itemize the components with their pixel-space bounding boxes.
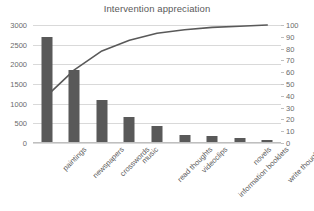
left-axis-tick-label: 3000 (10, 21, 27, 30)
right-axis-tick-label: 70 (286, 56, 294, 65)
category-label: paintings (61, 145, 89, 173)
right-axis-tick-label: 0 (286, 139, 290, 148)
right-axis-tick-label: 30 (286, 103, 294, 112)
right-axis-tick-label: 40 (286, 91, 294, 100)
right-axis-tick-mark (281, 84, 284, 85)
right-axis-tick-mark (281, 131, 284, 132)
right-axis-tick-mark (281, 25, 284, 26)
left-axis-tick-label: 2000 (10, 60, 27, 69)
right-axis-tick-mark (281, 60, 284, 61)
right-axis-tick-mark (281, 49, 284, 50)
category-axis-line (33, 142, 281, 143)
right-axis-tick-mark (281, 119, 284, 120)
cumulative-line (47, 25, 267, 96)
right-axis-tick-label: 90 (286, 32, 294, 41)
right-axis-tick-mark (281, 37, 284, 38)
right-axis-tick-mark (281, 108, 284, 109)
left-axis-tick-label: 1000 (10, 99, 27, 108)
chart-title: Intervention appreciation (0, 3, 314, 14)
right-axis-tick-label: 60 (286, 68, 294, 77)
left-value-axis: 050010001500200025003000 (0, 25, 30, 143)
right-axis-tick-label: 50 (286, 80, 294, 89)
left-axis-tick-label: 500 (14, 119, 27, 128)
right-axis-tick-label: 80 (286, 44, 294, 53)
category-axis-labels: paintingsnewspaperscrosswordsmusicread t… (33, 145, 281, 211)
right-axis-tick-label: 100 (286, 21, 299, 30)
right-axis-tick-mark (281, 96, 284, 97)
right-axis-tick-mark (281, 72, 284, 73)
left-axis-tick-label: 2500 (10, 40, 27, 49)
category-label-text: paintings (61, 145, 89, 173)
right-axis-tick-label: 10 (286, 127, 294, 136)
cumulative-line-series (33, 25, 281, 143)
left-axis-tick-label: 0 (23, 139, 27, 148)
pareto-chart: Intervention appreciation 05001000150020… (0, 0, 314, 211)
gridline (33, 143, 281, 144)
left-axis-tick-label: 1500 (10, 80, 27, 89)
plot-area (33, 25, 281, 143)
right-percentage-axis: 0102030405060708090100 (284, 25, 312, 143)
right-axis-tick-label: 20 (286, 115, 294, 124)
